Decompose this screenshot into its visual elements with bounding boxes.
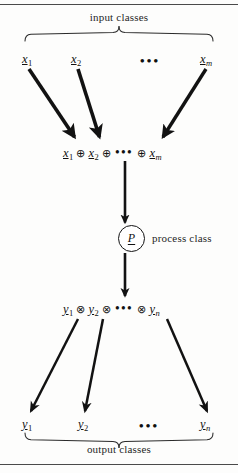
output-token-y2-base: y (78, 417, 84, 431)
output-token-y2: y2 (78, 418, 88, 432)
input-token-x2-sub: 2 (77, 58, 82, 68)
input-row-ellipsis: ••• (140, 54, 160, 67)
input-token-xm-base: x (200, 52, 206, 66)
output-sum-term-n: yn (150, 303, 160, 317)
output-row-ellipsis: ••• (139, 419, 159, 432)
input-sum-operator-2: ⊕ (99, 149, 114, 160)
output-token-y1: y1 (22, 418, 32, 432)
output-sum-term-n-sub: n (155, 308, 160, 318)
input-sum-ellipsis: ••• (114, 146, 134, 158)
process-class-symbol: P (128, 231, 135, 246)
input-sum-term-2: x2 (89, 147, 99, 161)
input-sum-term-1: x1 (63, 147, 73, 161)
output-sum-operator-2: ⊗ (99, 305, 114, 316)
input-token-xm-sub: m (206, 58, 213, 68)
output-token-yn-base: y (200, 417, 206, 431)
process-class-label: process class (152, 232, 212, 244)
brace-input (25, 26, 213, 41)
output-sum-operator-3: ⊗ (134, 305, 149, 316)
input-token-x1: x1 (22, 53, 32, 67)
arrow-x1-to-sum (29, 69, 75, 137)
output-token-y2-sub: 2 (84, 423, 89, 433)
arrows-input-converge (29, 69, 206, 137)
input-token-x1-base: x (22, 52, 28, 66)
arrow-sum-to-y2 (85, 319, 103, 411)
input-sum-operator-3: ⊕ (134, 149, 149, 160)
process-class-node: P (118, 225, 145, 252)
input-sum-operator-1: ⊕ (73, 149, 88, 160)
arrows-output-diverge (31, 319, 207, 411)
output-classes-label: output classes (0, 443, 238, 455)
input-sum-term-m-sub: m (155, 152, 162, 162)
input-sum-term-m: xm (150, 147, 162, 161)
input-token-x1-sub: 1 (28, 58, 33, 68)
output-sum-operator-1: ⊗ (73, 305, 88, 316)
arrow-sum-to-yn (167, 319, 207, 411)
arrow-sum-to-y1 (31, 319, 78, 411)
arrow-x2-to-sum (78, 69, 100, 137)
output-sum-term-1: y1 (63, 303, 73, 317)
figure-canvas: input classes output classes process cla… (0, 0, 238, 473)
output-token-y1-base: y (22, 417, 28, 431)
output-token-yn: yn (200, 418, 210, 432)
output-sum-term-2: y2 (89, 303, 99, 317)
input-sum-term-1-base: x (63, 146, 69, 160)
input-sum-expression: x1 ⊕ x2 ⊕ ••• ⊕ xm (63, 147, 162, 161)
input-token-xm: xm (200, 53, 212, 67)
output-sum-ellipsis: ••• (114, 302, 134, 314)
input-token-x2: x2 (71, 53, 81, 67)
output-sum-expression: y1 ⊗ y2 ⊗ ••• ⊗ yn (63, 303, 160, 317)
arrow-xm-to-sum (163, 69, 206, 137)
output-token-y1-sub: 1 (28, 423, 33, 433)
input-token-x2-base: x (71, 52, 77, 66)
input-classes-label: input classes (0, 11, 238, 23)
output-sum-term-1-base: y (63, 302, 69, 316)
output-token-yn-sub: n (206, 423, 211, 433)
